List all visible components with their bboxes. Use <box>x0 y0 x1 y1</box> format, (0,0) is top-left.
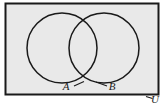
set-b-label: B <box>109 80 116 92</box>
set-a-label: A <box>62 80 70 92</box>
universal-set-label: U <box>151 93 160 105</box>
venn-diagram-figure: A B U <box>0 0 166 106</box>
venn-diagram-canvas: A B U <box>0 0 166 106</box>
universal-set-rectangle <box>6 4 159 95</box>
